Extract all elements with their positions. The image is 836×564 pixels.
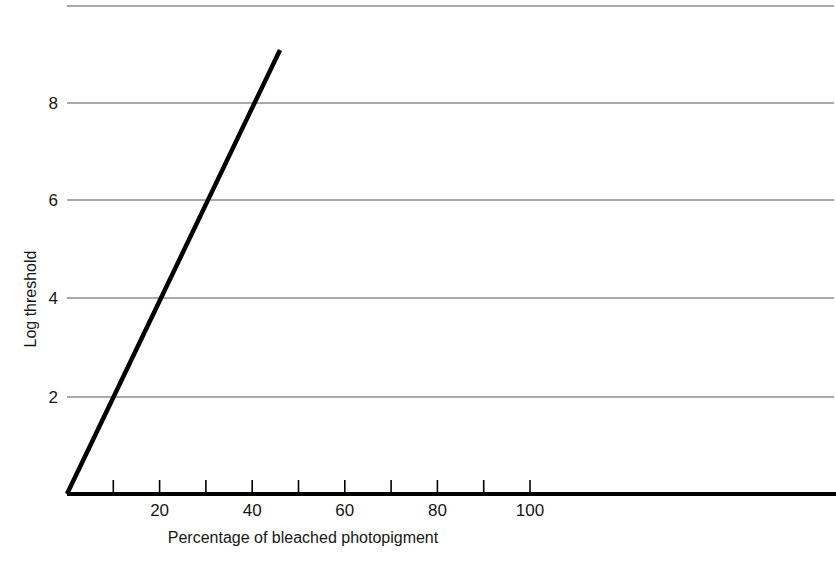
gridlines <box>67 6 834 397</box>
y-axis-title: Log threshold <box>22 251 39 348</box>
y-tick-label-4: 4 <box>49 289 58 308</box>
x-axis-ticks <box>113 480 530 492</box>
x-axis-tick-labels: 20 40 60 80 100 <box>150 501 544 520</box>
data-series-threshold-elevation <box>67 50 280 494</box>
y-tick-label-2: 2 <box>49 388 58 407</box>
chart-plot-area: 8 6 4 2 Log threshold 20 40 60 80 <box>0 0 836 564</box>
y-tick-label-8: 8 <box>49 94 58 113</box>
y-axis-tick-labels: 8 6 4 2 <box>49 94 58 407</box>
x-tick-label-80: 80 <box>428 501 447 520</box>
x-tick-label-40: 40 <box>243 501 262 520</box>
x-tick-label-20: 20 <box>150 501 169 520</box>
y-tick-label-6: 6 <box>49 191 58 210</box>
x-axis-title: Percentage of bleached photopigment <box>168 529 439 546</box>
x-tick-label-60: 60 <box>335 501 354 520</box>
chart-figure: 8 6 4 2 Log threshold 20 40 60 80 <box>0 0 836 564</box>
x-tick-label-100: 100 <box>516 501 544 520</box>
data-line <box>67 50 280 494</box>
